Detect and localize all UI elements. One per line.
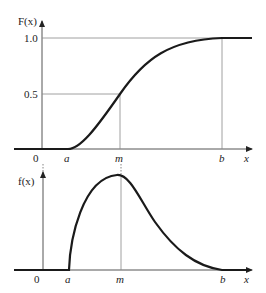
tick-a-bottom: a (65, 273, 71, 285)
cdf-curve (14, 38, 252, 149)
tick-0-bottom: 0 (34, 273, 40, 285)
tick-m-top: m (115, 152, 123, 164)
cdf-y-label: F(x) (18, 15, 37, 28)
pdf-curve (14, 175, 250, 270)
tick-b-top: b (219, 152, 225, 164)
tick-b-bottom: b (220, 273, 226, 285)
tick-1.0: 1.0 (24, 32, 38, 44)
tick-a-top: a (64, 152, 70, 164)
tick-0-top: 0 (33, 152, 39, 164)
tick-m-bottom: m (116, 273, 124, 285)
pdf-y-label: f(x) (18, 175, 35, 188)
cdf-plot: F(x) 1.0 0.5 0 a m b x (14, 15, 252, 164)
tick-0.5: 0.5 (24, 88, 38, 100)
tick-x-top: x (243, 152, 249, 164)
pdf-plot: f(x) 0 a m b x (14, 172, 252, 285)
distribution-diagram: F(x) 1.0 0.5 0 a m b x f(x) 0 a m b x (0, 0, 266, 293)
tick-x-bottom: x (243, 273, 249, 285)
